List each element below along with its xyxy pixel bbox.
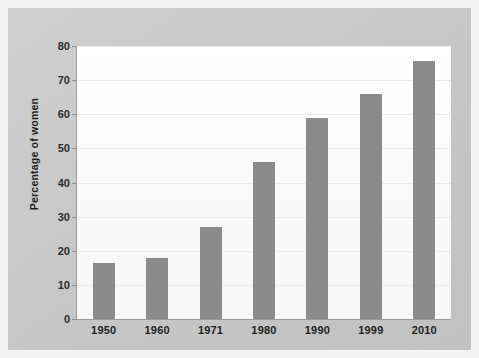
y-axis-tick-labels: 01020304050607080 [38,8,70,358]
bar [146,258,168,319]
chart-figure: 01020304050607080 Percentage of women 19… [0,0,479,358]
x-axis-tick-label: 1990 [287,324,347,336]
bar [253,162,275,319]
y-axis-tick-label: 50 [44,143,70,154]
x-axis-tick-label: 2010 [394,324,454,336]
y-axis-tick-label: 80 [44,41,70,52]
x-axis-line [76,319,451,320]
y-axis-tick [72,217,76,218]
y-axis-tick-label: 20 [44,246,70,257]
y-axis-tick-label: 70 [44,75,70,86]
y-axis-tick [72,183,76,184]
y-axis-tick [72,80,76,81]
gridline [77,114,451,115]
y-axis-line [76,46,77,320]
y-axis-tick [72,114,76,115]
gridline [77,148,451,149]
gridline [77,46,451,47]
x-axis-tick-label: 1980 [234,324,294,336]
y-axis-title: Percentage of women [28,84,40,224]
bar [306,118,328,319]
y-axis-tick-label: 30 [44,212,70,223]
y-axis-tick [72,46,76,47]
x-axis-tick-label: 1950 [74,324,134,336]
bar [93,263,115,319]
x-axis-tick-label: 1960 [127,324,187,336]
y-axis-tick [72,251,76,252]
x-axis-tick-label: 1999 [341,324,401,336]
y-axis-tick-label: 60 [44,109,70,120]
y-axis-tick-label: 40 [44,178,70,189]
bar [413,61,435,319]
bar [360,94,382,319]
plot-area [77,46,451,319]
bar [200,227,222,319]
y-axis-tick-label: 0 [44,314,70,325]
y-axis-tick [72,319,76,320]
y-axis-tick [72,285,76,286]
chart-card: 01020304050607080 Percentage of women 19… [8,8,471,350]
x-axis-tick-label: 1971 [181,324,241,336]
gridline [77,80,451,81]
x-axis-tick-labels: 1950196019711980199019992010 [77,324,451,344]
y-axis-tick-label: 10 [44,280,70,291]
y-axis-tick [72,148,76,149]
